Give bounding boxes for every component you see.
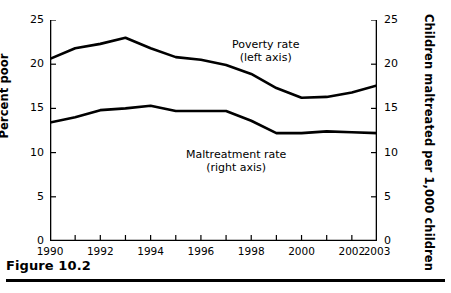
x-axis-tick-1992: 1992 <box>80 246 120 257</box>
series-annotation-poverty-rate-name: Poverty rate <box>232 38 299 51</box>
y-axis-tick-right-15: 15 <box>384 102 410 113</box>
x-axis-tick-1994: 1994 <box>131 246 171 257</box>
caption-divider <box>6 279 445 282</box>
y-axis-title-right: Children maltreated per 1,000 children <box>422 14 436 271</box>
series-annotation-poverty-rate: Poverty rate (left axis) <box>232 38 299 64</box>
y-axis-tick-left-20: 20 <box>18 58 44 69</box>
x-axis-tick-1990: 1990 <box>30 246 70 257</box>
y-axis-title-left: Percent poor <box>0 53 11 138</box>
plot-area <box>50 20 377 241</box>
series-line-maltreatment-rate <box>50 106 377 133</box>
series-annotation-maltreatment-rate: Maltreatment rate (right axis) <box>186 148 286 174</box>
y-axis-tick-left-5: 5 <box>18 191 44 202</box>
series-annotation-poverty-rate-axis: (left axis) <box>232 51 299 64</box>
y-axis-tick-left-15: 15 <box>18 102 44 113</box>
x-axis-tick-1998: 1998 <box>231 246 271 257</box>
y-axis-tick-right-10: 10 <box>384 147 410 158</box>
y-axis-tick-right-5: 5 <box>384 191 410 202</box>
series-annotation-maltreatment-rate-name: Maltreatment rate <box>186 148 286 161</box>
y-axis-tick-left-25: 25 <box>18 14 44 25</box>
x-axis-tick-2003: 2003 <box>357 246 397 257</box>
figure-caption-text: Figure 10.2 <box>6 258 91 273</box>
series-line-poverty-rate <box>50 38 377 98</box>
y-axis-tick-right-20: 20 <box>384 58 410 69</box>
x-axis-tick-1996: 1996 <box>181 246 221 257</box>
y-axis-tick-left-10: 10 <box>18 147 44 158</box>
chart-canvas <box>50 20 377 241</box>
series-annotation-maltreatment-rate-axis: (right axis) <box>186 161 286 174</box>
y-axis-tick-right-25: 25 <box>384 14 410 25</box>
figure-container: Percent poor Children maltreated per 1,0… <box>0 0 451 293</box>
x-axis-tick-2000: 2000 <box>282 246 322 257</box>
